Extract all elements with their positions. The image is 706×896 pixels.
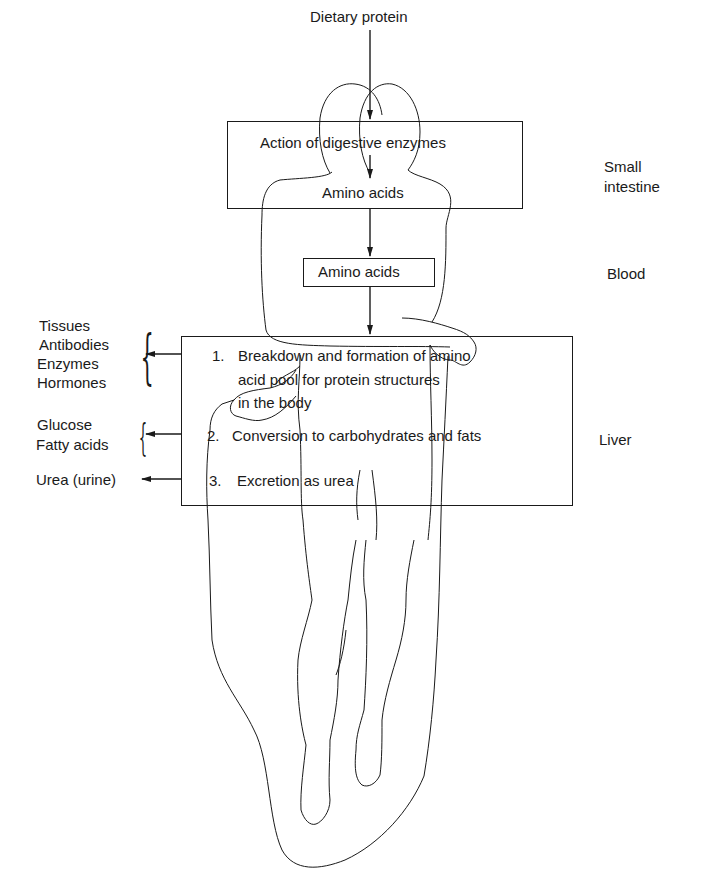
- liver-item-1-line1: Breakdown and formation of amino: [238, 347, 471, 365]
- liver-item-3-line1: Excretion as urea: [237, 472, 354, 490]
- output-enzymes: Enzymes: [37, 355, 99, 373]
- protein-metabolism-diagram: Dietary protein Action of digestive enzy…: [0, 0, 706, 896]
- small-intestine-label-line2: intestine: [604, 178, 660, 196]
- output-tissues: Tissues: [39, 317, 90, 335]
- liver-item-2-line1: Conversion to carbohydrates and fats: [232, 427, 481, 445]
- output-antibodies: Antibodies: [39, 336, 109, 354]
- liver-item-1-line2: acid pool for protein structures: [238, 371, 440, 389]
- digestive-enzymes-label: Action of digestive enzymes: [260, 134, 446, 152]
- small-intestine-label-line1: Small: [604, 158, 642, 176]
- output-fatty-acids: Fatty acids: [36, 436, 109, 454]
- brace-icon: {: [140, 326, 153, 386]
- liver-item-1-number: 1.: [212, 347, 225, 365]
- amino-acids-blood-label: Amino acids: [318, 263, 400, 281]
- liver-item-2-number: 2.: [207, 427, 220, 445]
- liver-item-1-line3: in the body: [238, 394, 311, 412]
- liver-label: Liver: [599, 431, 632, 449]
- blood-label: Blood: [607, 265, 645, 283]
- brace-icon: {: [139, 418, 147, 456]
- amino-acids-intestine-label: Amino acids: [322, 184, 404, 202]
- liver-item-3-number: 3.: [209, 472, 222, 490]
- output-glucose: Glucose: [37, 416, 92, 434]
- output-urea: Urea (urine): [36, 471, 116, 489]
- output-hormones: Hormones: [37, 374, 106, 392]
- dietary-protein-label: Dietary protein: [310, 8, 408, 26]
